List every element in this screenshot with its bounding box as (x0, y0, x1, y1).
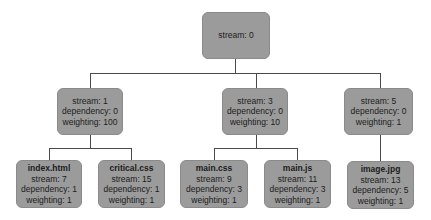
node-main-js: main.js stream: 11 dependency: 3 weighti… (264, 160, 331, 208)
node-weighting-label: weighting: 1 (109, 195, 154, 206)
node-dependency-label: dependency: 1 (21, 184, 77, 195)
node-weighting-label: weighting: 1 (356, 117, 401, 128)
node-stream-label: stream: 3 (237, 96, 272, 107)
node-dependency-label: dependency: 3 (186, 184, 242, 195)
node-stream-label: stream: 13 (360, 175, 400, 186)
node-dependency-label: dependency: 1 (104, 184, 160, 195)
node-stream-1: stream: 1 dependency: 0 weighting: 100 (57, 88, 123, 135)
connector-stream-1-down (90, 135, 91, 148)
node-resource-name: index.html (28, 163, 71, 174)
node-resource-name: critical.css (110, 163, 154, 174)
node-resource-name: main.js (283, 163, 312, 174)
connector-to-stream-1 (90, 73, 91, 88)
node-index-html: index.html stream: 7 dependency: 1 weigh… (16, 160, 82, 208)
node-resource-name: image.jpg (361, 164, 401, 175)
node-dependency-label: dependency: 0 (62, 106, 118, 117)
node-stream-label: stream: 7 (31, 174, 66, 185)
connector-level1-bar (90, 73, 381, 74)
connector-root-down (235, 59, 236, 73)
node-stream-label: stream: 1 (72, 96, 107, 107)
node-stream-5: stream: 5 dependency: 0 weighting: 1 (344, 88, 413, 135)
node-image-jpg: image.jpg stream: 13 dependency: 5 weigh… (347, 161, 414, 209)
node-stream-label: stream: 15 (111, 174, 151, 185)
node-stream-3: stream: 3 dependency: 0 weighting: 10 (222, 88, 288, 135)
node-stream-label: stream: 0 (218, 30, 253, 41)
connector-to-stream-3 (256, 73, 257, 88)
node-weighting-label: weighting: 100 (63, 117, 118, 128)
connector-to-critical-css (131, 148, 132, 160)
node-dependency-label: dependency: 0 (351, 106, 407, 117)
node-weighting-label: weighting: 1 (26, 195, 71, 206)
node-weighting-label: weighting: 1 (275, 195, 320, 206)
connector-to-main-js (297, 148, 298, 160)
connector-to-image-jpg (380, 135, 381, 161)
node-weighting-label: weighting: 10 (230, 117, 280, 128)
node-dependency-label: dependency: 3 (270, 184, 326, 195)
connector-stream-3-down (256, 135, 257, 148)
connector-to-index-html (49, 148, 50, 160)
node-stream-label: stream: 11 (278, 174, 318, 185)
node-stream-label: stream: 5 (361, 96, 396, 107)
node-dependency-label: dependency: 5 (353, 185, 409, 196)
connector-stream-3-bar (214, 148, 298, 149)
node-stream-label: stream: 9 (196, 174, 231, 185)
node-weighting-label: weighting: 1 (191, 195, 236, 206)
connector-to-main-css (214, 148, 215, 160)
node-critical-css: critical.css stream: 15 dependency: 1 we… (98, 160, 165, 208)
node-main-css: main.css stream: 9 dependency: 3 weighti… (180, 160, 248, 208)
connector-to-stream-5 (380, 73, 381, 88)
connector-stream-1-bar (49, 148, 132, 149)
node-root-stream-0: stream: 0 (202, 12, 270, 59)
node-weighting-label: weighting: 1 (358, 196, 403, 207)
node-resource-name: main.css (196, 163, 232, 174)
node-dependency-label: dependency: 0 (227, 106, 283, 117)
